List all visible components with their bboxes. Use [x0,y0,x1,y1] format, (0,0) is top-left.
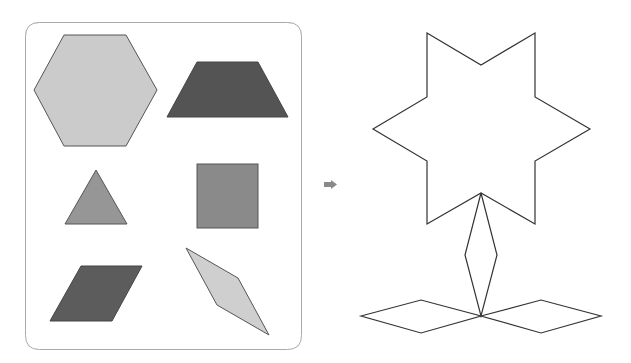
right-leaf-rhombus [481,300,601,333]
stem-rhombus [465,193,497,316]
square-shape [197,164,258,228]
left-leaf-rhombus [361,300,481,333]
right-arrow-icon [324,180,337,189]
pattern-block-diagram [0,0,631,363]
